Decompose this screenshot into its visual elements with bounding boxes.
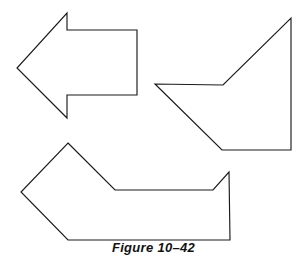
figure-caption: Figure 10–42 — [0, 240, 307, 255]
figure-drawing-canvas — [0, 0, 307, 262]
canvas-background — [0, 0, 307, 262]
figure-container: Figure 10–42 — [0, 0, 307, 262]
